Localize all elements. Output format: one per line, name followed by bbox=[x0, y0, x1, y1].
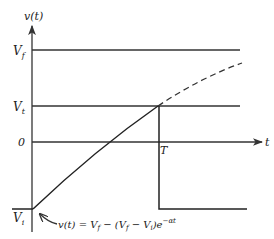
vt-label: Vt bbox=[13, 100, 26, 116]
formula-label: v(t) = Vf − (Vf − Vi)e−αt bbox=[58, 217, 176, 232]
charging-curve-dashed bbox=[158, 63, 242, 106]
reset-drop bbox=[159, 106, 247, 209]
formula-callout-arrow bbox=[40, 214, 57, 224]
t-axis-label: t bbox=[265, 136, 270, 149]
charging-curve-solid bbox=[33, 106, 158, 209]
y-axis-label: v(t) bbox=[24, 10, 43, 23]
vf-label: Vf bbox=[13, 44, 27, 60]
zero-label: 0 bbox=[18, 136, 25, 149]
t-marker-label: T bbox=[160, 144, 169, 157]
vi-label: Vi bbox=[13, 211, 25, 227]
charging-waveform-diagram: v(t) Vf Vt 0 t Vi T v(t) = Vf − (Vf − Vi… bbox=[0, 0, 274, 239]
